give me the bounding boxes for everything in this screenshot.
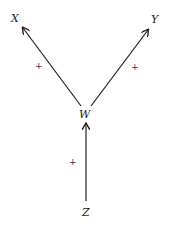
sign-z-w: + [69,157,77,167]
causal-diagram: X Y W Z + + + [0,0,170,228]
edge-w-to-x [23,28,81,106]
sign-w-y: + [131,62,139,72]
node-z-label: Z [81,206,90,219]
sign-w-x: + [35,61,43,71]
edge-w-to-y [91,30,148,106]
node-x-label: X [10,12,20,25]
node-w-label: W [79,108,92,121]
node-y-label: Y [151,13,160,26]
